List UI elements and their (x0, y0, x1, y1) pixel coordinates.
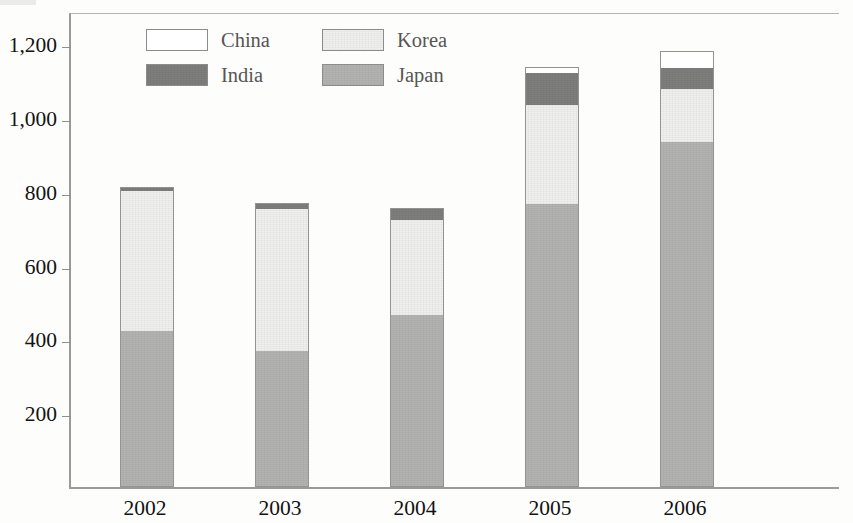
bar-segment-2006-china[interactable] (660, 51, 714, 68)
bar-segment-2003-korea[interactable] (255, 209, 309, 351)
legend-item-korea[interactable]: Korea (322, 28, 447, 52)
bar-2002[interactable] (120, 187, 174, 487)
bar-segment-2005-india[interactable] (525, 73, 579, 104)
stacked-bar-chart: 2004006008001,0001,200 20022003200420052… (0, 0, 853, 523)
bar-segment-2006-japan[interactable] (660, 142, 714, 487)
bar-2003[interactable] (255, 203, 309, 487)
y-tick-600 (62, 269, 71, 270)
y-tick-label-1200: 1,200 (0, 35, 57, 57)
legend-label-korea: Korea (397, 29, 447, 51)
y-tick-label-200: 200 (0, 404, 57, 426)
y-tick-800 (62, 195, 71, 196)
bar-segment-2002-japan[interactable] (120, 331, 174, 487)
bar-segment-2006-india[interactable] (660, 68, 714, 89)
x-tick-label-2005: 2005 (490, 496, 610, 520)
y-tick-label-800: 800 (0, 183, 57, 205)
y-tick-1200 (62, 47, 71, 48)
x-tick-label-2006: 2006 (625, 496, 745, 520)
scan-artifact (0, 0, 36, 5)
y-tick-400 (62, 342, 71, 343)
x-tick-label-2004: 2004 (355, 496, 475, 520)
bar-2006[interactable] (660, 51, 714, 487)
y-tick-label-600: 600 (0, 257, 57, 279)
legend-item-india[interactable]: India (146, 63, 263, 87)
legend-swatch-china-icon (146, 29, 208, 51)
legend-item-china[interactable]: China (146, 28, 270, 52)
legend-label-china: China (221, 29, 270, 51)
legend-item-japan[interactable]: Japan (322, 63, 444, 87)
legend-label-japan: Japan (397, 64, 444, 86)
bar-segment-2004-india[interactable] (390, 208, 444, 220)
y-tick-1000 (62, 121, 71, 122)
y-tick-label-400: 400 (0, 330, 57, 352)
bar-segment-2006-korea[interactable] (660, 89, 714, 142)
x-tick-label-2003: 2003 (220, 496, 340, 520)
y-tick-200 (62, 416, 71, 417)
legend-swatch-india-icon (146, 64, 208, 86)
y-tick-label-1000: 1,000 (0, 109, 57, 131)
bar-segment-2005-korea[interactable] (525, 105, 579, 204)
bar-segment-2005-china[interactable] (525, 67, 579, 74)
legend-swatch-japan-icon (322, 64, 384, 86)
bar-2005[interactable] (525, 67, 579, 487)
bar-segment-2004-korea[interactable] (390, 220, 444, 316)
bar-segment-2003-japan[interactable] (255, 351, 309, 487)
x-tick-label-2002: 2002 (85, 496, 205, 520)
legend-label-india: India (221, 64, 263, 86)
chart-legend: China Korea India Japan (146, 28, 446, 90)
bar-segment-2005-japan[interactable] (525, 204, 579, 487)
legend-swatch-korea-icon (322, 29, 384, 51)
bar-segment-2004-japan[interactable] (390, 315, 444, 487)
bar-segment-2003-india[interactable] (255, 203, 309, 210)
bar-segment-2002-korea[interactable] (120, 191, 174, 330)
bar-2004[interactable] (390, 208, 444, 487)
